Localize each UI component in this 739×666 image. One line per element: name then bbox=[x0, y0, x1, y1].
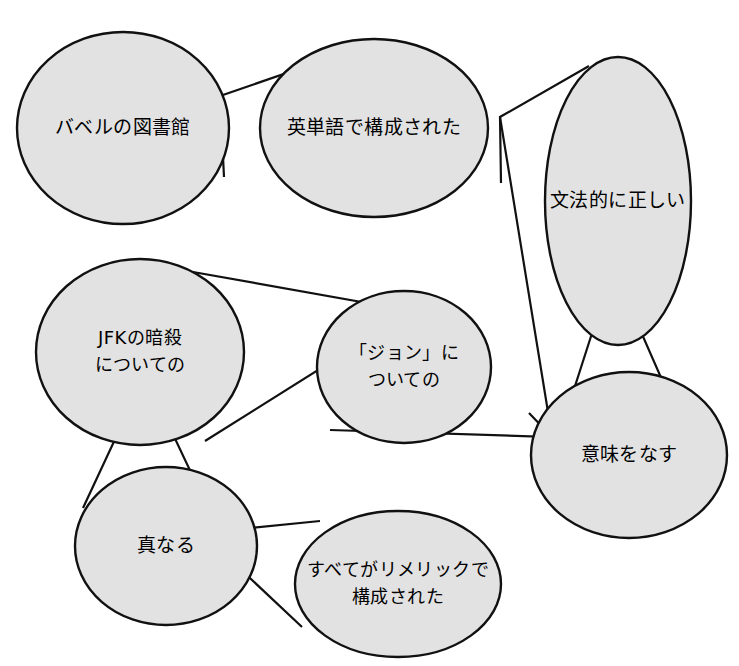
node-label-grammatically-correct: 文法的に正しい bbox=[550, 189, 686, 211]
diagram-canvas: バベルの図書館英単語で構成された文法的に正しいJFKの暗殺についての「ジョン」に… bbox=[0, 0, 739, 666]
ellipse-all-composed-of-limericks bbox=[295, 511, 501, 657]
concept-diagram: バベルの図書館英単語で構成された文法的に正しいJFKの暗殺についての「ジョン」に… bbox=[0, 0, 739, 666]
node-label-makes-sense: 意味をなす bbox=[581, 443, 678, 465]
node-label-library-of-babel: バベルの図書館 bbox=[55, 116, 191, 138]
node-about-john[interactable]: 「ジョン」についての bbox=[317, 291, 491, 443]
node-all-composed-of-limericks[interactable]: すべてがリメリックで構成された bbox=[295, 511, 501, 657]
node-about-jfk-assassination[interactable]: JFKの暗殺についての bbox=[36, 259, 244, 445]
node-layer: バベルの図書館英単語で構成された文法的に正しいJFKの暗殺についての「ジョン」に… bbox=[17, 32, 727, 657]
node-grammatically-correct[interactable]: 文法的に正しい bbox=[545, 57, 691, 345]
node-label-true: 真なる bbox=[137, 534, 195, 556]
node-composed-of-english-words[interactable]: 英単語で構成された bbox=[260, 39, 488, 217]
ellipse-about-jfk-assassination bbox=[36, 259, 244, 445]
node-label-composed-of-english-words: 英単語で構成された bbox=[287, 116, 462, 138]
ellipse-about-john bbox=[317, 291, 491, 443]
node-makes-sense[interactable]: 意味をなす bbox=[531, 372, 727, 538]
node-library-of-babel[interactable]: バベルの図書館 bbox=[17, 32, 229, 224]
node-true[interactable]: 真なる bbox=[75, 467, 257, 625]
